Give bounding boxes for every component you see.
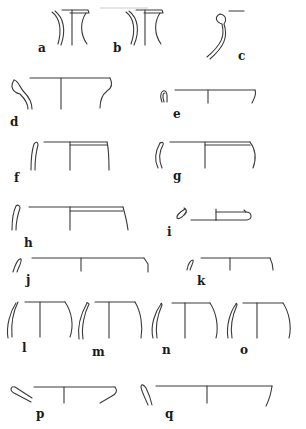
label-h: h	[24, 236, 33, 250]
profile-m: m	[79, 302, 142, 359]
profile-l: l	[7, 302, 72, 355]
profile-a: a	[38, 10, 89, 55]
label-e: e	[173, 107, 181, 121]
profile-k: k	[187, 258, 273, 288]
label-q: q	[165, 407, 174, 421]
label-k: k	[197, 274, 206, 288]
label-g: g	[173, 169, 182, 183]
profile-i: i	[167, 208, 251, 239]
profile-e: e	[161, 90, 256, 121]
label-c: c	[238, 49, 245, 63]
label-p: p	[36, 407, 44, 421]
label-n: n	[162, 343, 171, 357]
label-f: f	[14, 171, 20, 185]
profile-c: c	[207, 11, 245, 63]
label-d: d	[10, 115, 19, 129]
label-m: m	[92, 345, 105, 359]
label-a: a	[38, 41, 46, 55]
profile-f: f	[14, 142, 109, 185]
profile-h: h	[12, 205, 128, 250]
label-i: i	[167, 225, 172, 239]
profile-d: d	[10, 78, 112, 129]
profile-p: p	[11, 387, 116, 421]
label-j: j	[25, 273, 30, 287]
pottery-profile-plate: a b c d e	[0, 0, 306, 429]
profile-o: o	[227, 303, 290, 357]
profile-j: j	[13, 258, 148, 287]
label-l: l	[22, 341, 27, 355]
label-o: o	[240, 343, 248, 357]
label-b: b	[113, 41, 121, 55]
profile-n: n	[152, 303, 217, 357]
profile-b: b	[100, 8, 163, 55]
profile-g: g	[156, 142, 255, 183]
profile-q: q	[141, 385, 272, 421]
